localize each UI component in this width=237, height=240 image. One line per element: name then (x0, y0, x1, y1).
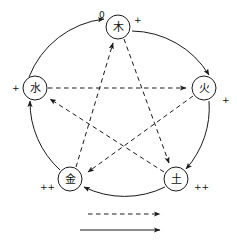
arc-earth-to-metal (84, 187, 165, 196)
node-wood-label: 木 (113, 21, 124, 34)
sign-label-wood: + (134, 15, 142, 25)
line-earth-to-water (50, 99, 164, 172)
arc-metal-to-water (30, 101, 60, 170)
node-fire[interactable]: 火 (192, 76, 216, 100)
node-metal-label: 金 (65, 172, 76, 186)
line-fire-to-metal (88, 96, 193, 172)
arc-wood-to-fire (132, 31, 209, 75)
sign-label-water: + (12, 83, 20, 93)
wuxing-svg-canvas: 木 火 土 金 水 + + ++ ++ + 0 (0, 0, 237, 240)
node-earth-label: 土 (171, 173, 182, 186)
legend-group (80, 214, 160, 230)
five-elements-diagram: 木 火 土 金 水 + + ++ ++ + 0 (0, 0, 237, 240)
sign-label-fire: + (222, 95, 230, 105)
sign-label-metal: ++ (40, 182, 55, 192)
node-metal[interactable]: 金 (58, 167, 82, 191)
zero-label: 0 (99, 10, 105, 20)
node-water[interactable]: 水 (23, 76, 47, 100)
overcoming-cycle-group (48, 39, 193, 172)
line-wood-to-earth (124, 39, 169, 163)
arc-water-to-wood (29, 19, 104, 77)
node-water-label: 水 (30, 82, 41, 95)
sign-label-earth: ++ (194, 182, 209, 192)
node-wood[interactable]: 木 (106, 15, 130, 39)
line-metal-to-wood (76, 43, 113, 167)
arc-fire-to-earth (186, 101, 209, 169)
node-earth[interactable]: 土 (164, 167, 188, 191)
node-fire-label: 火 (199, 82, 210, 95)
